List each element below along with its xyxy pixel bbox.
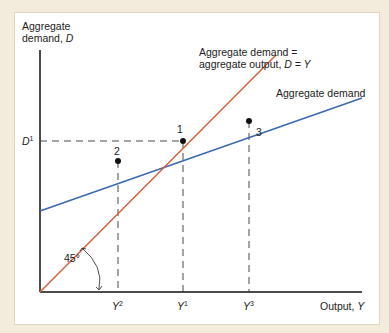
y1-tick: Y1 xyxy=(177,300,188,312)
y2-tick: Y2 xyxy=(112,300,123,312)
point-1-label: 1 xyxy=(177,123,183,135)
d1-label: D1 xyxy=(22,135,34,147)
svg-text:aggregate output, D = Y: aggregate output, D = Y xyxy=(199,58,312,70)
chart: Aggregate demand, D Aggregate demand = a… xyxy=(0,0,389,333)
point-2-label: 2 xyxy=(114,145,120,157)
point-3-label: 3 xyxy=(256,126,262,138)
point-1 xyxy=(180,138,186,144)
blue-label: Aggregate demand xyxy=(276,87,365,99)
point-2 xyxy=(115,158,121,164)
red-label-1: Aggregate demand = xyxy=(199,46,297,58)
y-label-1: Aggregate xyxy=(22,20,71,32)
angle-arc xyxy=(82,248,100,289)
aggregate-demand-line xyxy=(40,98,362,211)
x-label: Output, Y xyxy=(320,300,365,312)
point-3 xyxy=(246,118,252,124)
svg-text:demand, D: demand, D xyxy=(22,32,74,44)
y3-tick: Y3 xyxy=(243,300,254,312)
angle-label: 45° xyxy=(64,252,80,264)
guide-lines xyxy=(40,121,249,292)
